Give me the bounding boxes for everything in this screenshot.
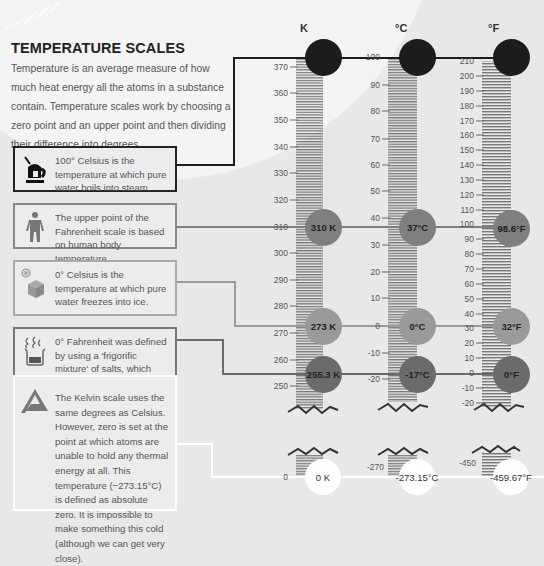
tick-label: 320 <box>262 195 288 205</box>
tick-label: 120 <box>448 190 474 200</box>
tick-label: 270 <box>262 328 288 338</box>
fahrenheit-freezing-marker: 32°F <box>493 308 530 345</box>
tick-label: 0 <box>448 368 474 378</box>
tick-label: 260 <box>262 355 288 365</box>
tick-label: 90 <box>448 234 474 244</box>
info-text: 100° Celsius is the temperature at which… <box>55 154 169 195</box>
info-text: The upper point of the Fahrenheit scale … <box>55 211 169 265</box>
kettle-icon <box>21 154 49 186</box>
tick-label: 330 <box>262 168 288 178</box>
info-text: 0° Celsius is the temperature at which p… <box>55 268 169 309</box>
tick-label: 10 <box>354 293 380 303</box>
tick-label: 160 <box>448 130 474 140</box>
tick-label: 300 <box>262 248 288 258</box>
fahrenheit-header: °F <box>488 22 499 34</box>
tick-label: 30 <box>354 240 380 250</box>
tick-label: -450 <box>450 458 476 468</box>
celsius-freezing-marker: 0°C <box>399 308 436 345</box>
fahrenheit-zero-marker: -459.67°F <box>493 459 529 495</box>
tick-label: 100 <box>448 219 474 229</box>
kelvin-a-icon <box>21 387 49 419</box>
tick-label: 200 <box>448 71 474 81</box>
fahrenheit-body-marker: 98.6°F <box>493 210 530 247</box>
person-icon <box>21 211 49 243</box>
fahrenheit-boiling-marker: 212°F <box>493 39 530 76</box>
tick-label: -10 <box>448 383 474 393</box>
tick-label: 20 <box>354 267 380 277</box>
info-box-body: The upper point of the Fahrenheit scale … <box>13 203 177 249</box>
tick-label: -10 <box>354 348 380 358</box>
tick-label: 40 <box>354 213 380 223</box>
tick-label: 350 <box>262 115 288 125</box>
tick-label: -20 <box>448 398 474 408</box>
tick-label: 40 <box>448 309 474 319</box>
tick-label: 80 <box>448 249 474 259</box>
tick-label: 210 <box>448 56 474 66</box>
tick-label: 80 <box>354 106 380 116</box>
celsius-header: °C <box>395 22 407 34</box>
celsius-frigorific-marker: -17°C <box>399 356 436 393</box>
tick-label: 0 <box>354 321 380 331</box>
tick-label: 30 <box>448 323 474 333</box>
tick-label: 60 <box>448 279 474 289</box>
kelvin-boiling-marker: 373 K <box>305 39 342 76</box>
celsius-body-marker: 37°C <box>399 209 436 246</box>
tick-label: 50 <box>354 186 380 196</box>
kelvin-body-marker: 310 K <box>305 209 342 246</box>
kelvin-zero-marker: 0 K <box>305 459 341 495</box>
tick-label: 180 <box>448 101 474 111</box>
tick-label: 310 <box>262 222 288 232</box>
tick-label: 70 <box>354 134 380 144</box>
tick-label: 140 <box>448 160 474 170</box>
tick-label: 110 <box>448 205 474 215</box>
tick-label: 370 <box>262 62 288 72</box>
tick-label: 60 <box>354 160 380 170</box>
kelvin-header: K <box>300 22 308 34</box>
tick-label: 10 <box>448 353 474 363</box>
tick-label: 190 <box>448 86 474 96</box>
info-text: The Kelvin scale uses the same degrees a… <box>55 391 169 566</box>
celsius-boiling-marker: 100°C <box>399 39 436 76</box>
tick-label: -20 <box>354 374 380 384</box>
tick-label: 280 <box>262 301 288 311</box>
kelvin-frigorific-marker: 255.3 K <box>305 356 342 393</box>
tick-label: 100 <box>354 52 380 62</box>
fahrenheit-frigorific-marker: 0°F <box>493 356 530 393</box>
info-box-boiling: 100° Celsius is the temperature at which… <box>13 146 177 192</box>
tick-label: 90 <box>354 80 380 90</box>
kelvin-freezing-marker: 273 K <box>305 308 342 345</box>
tick-label: 70 <box>448 264 474 274</box>
tick-label: 20 <box>448 338 474 348</box>
tick-label: 290 <box>262 275 288 285</box>
tick-label: -270 <box>358 462 384 472</box>
tick-label: 150 <box>448 145 474 155</box>
celsius-zero-marker: -273.15°C <box>399 459 435 495</box>
tick-label: 250 <box>262 381 288 391</box>
beaker-icon <box>21 335 49 367</box>
info-box-kelvin: The Kelvin scale uses the same degrees a… <box>13 375 177 511</box>
tick-label: 0 <box>262 472 288 482</box>
ice-cube-icon <box>21 268 49 300</box>
tick-label: 130 <box>448 175 474 185</box>
info-box-freezing: 0° Celsius is the temperature at which p… <box>13 260 177 316</box>
tick-label: 360 <box>262 88 288 98</box>
tick-label: 50 <box>448 294 474 304</box>
tick-label: 340 <box>262 142 288 152</box>
tick-label: 170 <box>448 116 474 126</box>
